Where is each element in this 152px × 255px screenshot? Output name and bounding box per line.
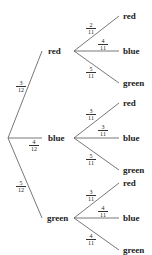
leaf-green-red: red xyxy=(123,179,136,188)
prob-red: 312 xyxy=(16,80,26,93)
prob-blue-blue: 311 xyxy=(98,124,108,137)
prob-red-blue: 411 xyxy=(98,38,108,51)
leaf-red-green: green xyxy=(123,79,144,88)
branch-red xyxy=(8,51,42,138)
leaf-red-red: red xyxy=(123,12,136,21)
prob-blue-red: 311 xyxy=(86,108,96,121)
node-blue: blue xyxy=(48,134,65,143)
leaf-blue-blue: blue xyxy=(123,134,140,143)
leaf-red-blue: blue xyxy=(123,47,140,56)
prob-blue: 412 xyxy=(29,139,39,152)
node-red: red xyxy=(48,47,61,56)
node-green: green xyxy=(47,214,68,223)
prob-green: 512 xyxy=(16,180,26,193)
prob-blue-green: 511 xyxy=(86,153,96,166)
prob-green-red: 311 xyxy=(86,189,96,202)
prob-green-blue: 411 xyxy=(98,205,108,218)
prob-red-green: 511 xyxy=(86,66,96,79)
leaf-green-green: green xyxy=(123,246,144,255)
leaf-green-blue: blue xyxy=(123,214,140,223)
leaf-blue-green: green xyxy=(123,166,144,175)
leaf-blue-red: red xyxy=(123,99,136,108)
prob-red-red: 211 xyxy=(86,22,96,35)
prob-green-green: 411 xyxy=(86,233,96,246)
